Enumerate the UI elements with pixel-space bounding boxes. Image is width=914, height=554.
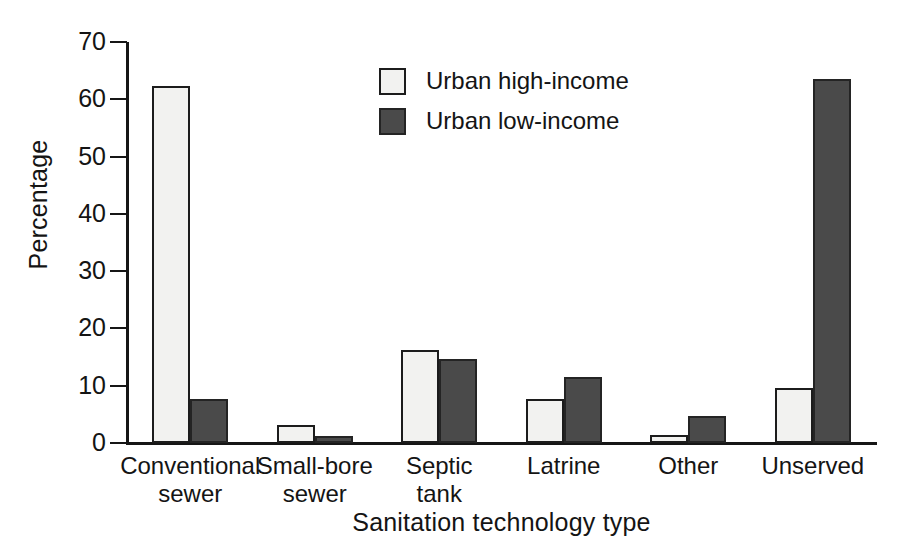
legend-swatch-low-income [379,108,406,135]
y-tick-label: 30 [48,258,106,283]
bar-low-income [190,399,228,443]
bar-group [775,42,851,443]
bar-group [152,42,228,443]
y-tick-label: 50 [48,144,106,169]
legend-item-urban-high-income: Urban high-income [379,64,629,98]
x-axis-title: Sanitation technology type [128,508,875,537]
bar-high-income [277,425,315,443]
bar-low-income [315,436,353,443]
category-label: Unserved [703,452,914,480]
y-tick-label: 10 [48,373,106,398]
bar-high-income [401,350,439,443]
y-tick-label: 60 [48,86,106,111]
bar-group [277,42,353,443]
y-tick-mark [110,156,127,158]
y-tick-mark [110,385,127,387]
bar-high-income [650,435,688,443]
legend-swatch-high-income [379,68,406,95]
bar-group [650,42,726,443]
y-tick-label: 20 [48,315,106,340]
bar-high-income [152,86,190,443]
y-tick-label: 40 [48,201,106,226]
legend-label-low-income: Urban low-income [426,107,619,135]
bar-low-income [813,79,851,443]
y-tick-mark [110,327,127,329]
legend: Urban high-income Urban low-income [379,64,629,144]
bar-low-income [688,416,726,443]
bar-high-income [775,388,813,443]
y-tick-mark [110,270,127,272]
y-tick-mark [110,442,127,444]
y-tick-label: 70 [48,29,106,54]
category-label-line: tank [329,480,549,508]
bar-low-income [564,377,602,443]
bar-chart: Percentage 010203040506070 Conventionals… [0,0,914,554]
legend-item-urban-low-income: Urban low-income [379,104,629,138]
bar-high-income [526,399,564,443]
bar-low-income [439,359,477,443]
legend-label-high-income: Urban high-income [426,67,629,95]
y-tick-mark [110,41,127,43]
y-tick-mark [110,98,127,100]
category-label-line: Unserved [703,452,914,480]
y-tick-mark [110,213,127,215]
